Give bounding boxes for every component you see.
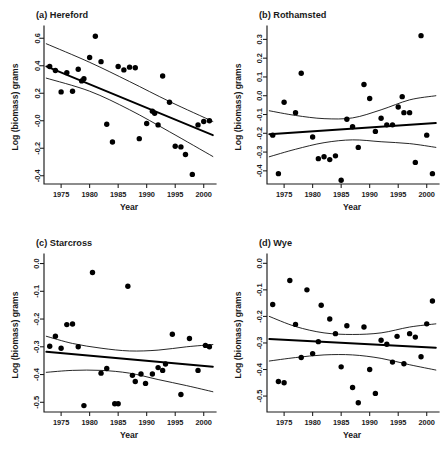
x-tick-label: 1985 <box>333 418 349 427</box>
data-point <box>333 331 338 336</box>
data-point <box>378 338 383 343</box>
data-point <box>424 132 429 137</box>
data-point <box>104 366 109 371</box>
y-tick-label: -0.5 <box>256 390 265 403</box>
data-point <box>350 124 355 129</box>
data-point <box>407 331 412 336</box>
data-point <box>127 64 132 69</box>
data-point <box>327 316 332 321</box>
data-point <box>327 157 332 162</box>
data-point <box>64 322 69 327</box>
data-point <box>81 403 86 408</box>
data-point <box>160 368 165 373</box>
data-point <box>424 321 429 326</box>
data-point <box>299 70 304 75</box>
data-point <box>396 104 401 109</box>
axis-spines <box>267 26 439 184</box>
panel-title: (a) Hereford <box>36 10 88 20</box>
data-point <box>195 122 200 127</box>
x-tick-label: 1990 <box>361 418 377 427</box>
data-point <box>361 324 366 329</box>
y-tick-label: 0.0 <box>256 91 265 101</box>
data-point <box>150 371 155 376</box>
data-point <box>344 117 349 122</box>
data-point <box>70 88 75 93</box>
data-point <box>350 385 355 390</box>
data-point <box>356 145 361 150</box>
data-point <box>401 361 406 366</box>
data-point <box>183 152 188 157</box>
panel-c: (c) Starcross0.0-0.1-0.2-0.3-0.4-0.51975… <box>0 228 224 456</box>
data-point <box>76 66 81 71</box>
data-point <box>207 118 212 123</box>
data-point <box>344 323 349 328</box>
data-point <box>401 110 406 115</box>
data-point <box>90 270 95 275</box>
x-tick-label: 2000 <box>196 418 212 427</box>
y-tick-label: 0.4 <box>33 60 42 71</box>
y-tick-label: 0.6 <box>33 33 42 43</box>
data-point <box>270 132 275 137</box>
data-point <box>367 367 372 372</box>
x-axis-title: Year <box>343 202 362 212</box>
data-point <box>173 143 178 148</box>
panel-title: (b) Rothamsted <box>259 10 326 20</box>
regression-line <box>269 339 436 348</box>
y-tick-label: -0.0 <box>33 114 42 127</box>
data-point <box>76 344 81 349</box>
y-axis-title: Log (biomass) grams <box>10 291 20 378</box>
x-tick-label: 1975 <box>53 190 69 199</box>
x-tick-label: 1975 <box>276 418 292 427</box>
panel-a-svg: (a) Hereford0.60.40.2-0.0-0.2-0.41975198… <box>0 0 224 228</box>
ci-lower-curve <box>269 355 436 371</box>
data-point <box>373 129 378 134</box>
y-tick-label: 0.2 <box>33 88 42 98</box>
regression-line <box>46 66 213 135</box>
data-point <box>58 89 63 94</box>
x-axis-title: Year <box>343 430 362 440</box>
data-point <box>53 334 58 339</box>
data-point <box>170 332 175 337</box>
data-point <box>178 392 183 397</box>
data-point <box>394 334 399 339</box>
data-point <box>201 119 206 124</box>
data-point <box>373 391 378 396</box>
x-tick-label: 2000 <box>419 418 435 427</box>
data-point <box>390 359 395 364</box>
data-point <box>378 116 383 121</box>
data-point <box>137 136 142 141</box>
data-point <box>70 321 75 326</box>
data-point <box>47 344 52 349</box>
y-tick-label: -0.4 <box>33 367 42 381</box>
data-point <box>190 172 195 177</box>
y-tick-label: -0.2 <box>33 313 42 326</box>
data-point <box>98 370 103 375</box>
x-axis-title: Year <box>120 202 139 212</box>
y-tick-label: 0.3 <box>256 34 265 44</box>
data-point <box>418 354 423 359</box>
data-point <box>187 336 192 341</box>
data-point <box>338 364 343 369</box>
data-point <box>138 371 143 376</box>
x-tick-label: 1985 <box>110 190 126 199</box>
data-point <box>152 110 157 115</box>
x-tick-label: 2000 <box>196 190 212 199</box>
y-tick-label: -0.1 <box>33 285 42 298</box>
ci-lower-curve <box>46 370 213 392</box>
data-point <box>53 68 58 73</box>
data-point <box>115 64 120 69</box>
data-point <box>361 82 366 87</box>
x-tick-label: 1995 <box>390 190 406 199</box>
y-axis-title: Log (biomass) grams <box>10 63 20 150</box>
data-point <box>178 144 183 149</box>
regression-line <box>46 352 213 367</box>
data-point <box>270 302 275 307</box>
x-tick-label: 1985 <box>110 418 126 427</box>
data-point <box>413 334 418 339</box>
data-point <box>304 287 309 292</box>
data-point <box>390 122 395 127</box>
y-tick-label: 0.1 <box>256 72 265 82</box>
data-point <box>333 153 338 158</box>
ci-lower-curve <box>269 140 436 157</box>
y-tick-label: -0.3 <box>33 340 42 353</box>
